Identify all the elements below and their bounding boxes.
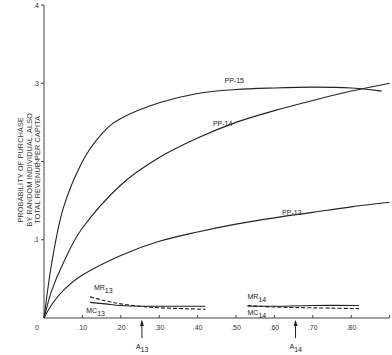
label-pp15: PP-15 xyxy=(224,77,244,84)
label-pp13: PP-13 xyxy=(282,209,302,216)
label-mc14: MC14 xyxy=(248,309,267,319)
x-tick-label: .30 xyxy=(154,324,164,331)
label-pp14: PP-14 xyxy=(213,120,233,127)
y-axis-label-line-3: TOTAL REVENUE PER CAPITA xyxy=(34,70,43,270)
curve-mr13 xyxy=(90,297,205,310)
label-mr13: MR13 xyxy=(94,284,113,294)
arrowhead-icon xyxy=(140,320,144,326)
x-tick-label: 0 xyxy=(35,324,39,331)
y-tick-label: .4 xyxy=(33,2,39,9)
curve-mc13 xyxy=(90,302,205,306)
curve-mc14 xyxy=(248,305,359,306)
label-mc13: MC13 xyxy=(86,307,105,317)
curve-labels: PP-15PP-14PP-13MR13MC13MR14MC14 xyxy=(86,77,301,319)
x-tick-label: .70 xyxy=(308,324,318,331)
chart-canvas: .1.2.3.40.10.20.30.40.50.60.70.80 PP-15P… xyxy=(0,0,392,355)
x-tick-label: .60 xyxy=(270,324,280,331)
x-tick-label: .80 xyxy=(346,324,356,331)
x-tick-label: .10 xyxy=(78,324,88,331)
curve-pp14 xyxy=(44,83,390,318)
annotation-a13: A13 xyxy=(136,343,149,353)
x-tick-label: .40 xyxy=(193,324,203,331)
curve-pp13 xyxy=(44,202,390,318)
arrowhead-icon xyxy=(294,320,298,326)
y-axis-label: PROBABILITY OF PURCHASE BY RANDOM INDIVI… xyxy=(17,70,43,270)
x-tick-label: .20 xyxy=(116,324,126,331)
axes: .1.2.3.40.10.20.30.40.50.60.70.80 xyxy=(33,2,389,332)
x-tick-label: .50 xyxy=(231,324,241,331)
label-mr14: MR14 xyxy=(248,293,267,303)
curves xyxy=(44,83,390,318)
annotation-a14: A14 xyxy=(290,343,303,353)
